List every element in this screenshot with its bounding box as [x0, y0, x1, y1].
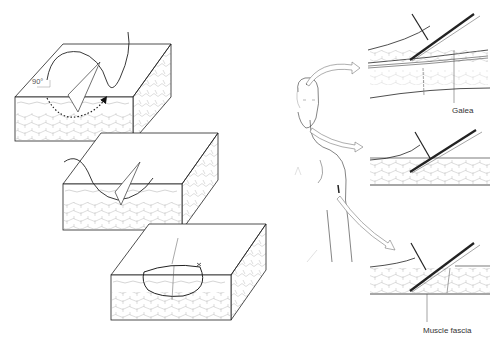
detail-middle: [370, 130, 490, 185]
skin-block-1: [15, 32, 171, 141]
suture-diagram: [0, 0, 493, 341]
skin-block-3: [111, 224, 266, 320]
skin-block-2: [63, 133, 218, 230]
detail-muscle-fascia: [370, 243, 490, 322]
human-figure: [295, 78, 352, 262]
callout-arrows: [306, 62, 395, 250]
muscle-fascia-label: Muscle fascia: [423, 326, 471, 335]
angle-label: 90°: [32, 77, 43, 86]
detail-galea: [368, 14, 490, 103]
galea-label: Galea: [452, 106, 473, 115]
